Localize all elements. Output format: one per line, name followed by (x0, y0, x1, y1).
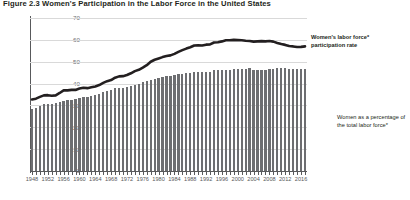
x-tick (68, 172, 69, 175)
x-tick (32, 172, 33, 175)
x-tick (301, 172, 302, 175)
x-tick-label: 1964 (89, 177, 101, 183)
x-tick (60, 172, 61, 175)
x-tick-label: 1972 (121, 177, 133, 183)
x-tick (103, 172, 104, 175)
x-tick (285, 172, 286, 175)
x-tick (64, 172, 65, 175)
x-tick (127, 172, 128, 175)
x-tick-label: 1948 (26, 177, 38, 183)
x-tick (151, 172, 152, 175)
x-tick (56, 172, 57, 175)
x-tick (48, 172, 49, 175)
x-tick (210, 172, 211, 175)
x-tick (258, 172, 259, 175)
x-tick (95, 172, 96, 175)
x-tick (91, 172, 92, 175)
x-tick (147, 172, 148, 175)
x-tick (226, 172, 227, 175)
x-tick (214, 172, 215, 175)
x-tick-label: 2004 (247, 177, 259, 183)
x-tick (174, 172, 175, 175)
x-tick (72, 172, 73, 175)
x-tick-label: 2000 (232, 177, 244, 183)
x-tick-label: 1968 (105, 177, 117, 183)
x-tick (198, 172, 199, 175)
x-tick (273, 172, 274, 175)
x-tick (277, 172, 278, 175)
x-tick (305, 172, 306, 175)
x-tick (265, 172, 266, 175)
x-tick (135, 172, 136, 175)
x-tick (143, 172, 144, 175)
x-tick (111, 172, 112, 175)
x-tick-label: 1956 (57, 177, 69, 183)
x-tick (230, 172, 231, 175)
x-tick-label: 2016 (295, 177, 307, 183)
annotation-line-series: Women's labor force* participation rate (311, 34, 387, 49)
x-tick (139, 172, 140, 175)
x-tick-label: 1996 (216, 177, 228, 183)
x-tick (269, 172, 270, 175)
x-tick-label: 1960 (73, 177, 85, 183)
annotation-bar-series: Women as a percentage of the total labor… (337, 114, 410, 129)
x-label-group: 1948195219561960196419681972197619801984… (0, 177, 389, 189)
x-tick (52, 172, 53, 175)
x-tick (242, 172, 243, 175)
x-tick (87, 172, 88, 175)
x-tick (167, 172, 168, 175)
x-tick (238, 172, 239, 175)
x-tick (40, 172, 41, 175)
x-tick (123, 172, 124, 175)
x-tick (83, 172, 84, 175)
x-tick-label: 1952 (42, 177, 54, 183)
x-tick (119, 172, 120, 175)
x-tick (246, 172, 247, 175)
x-tick-label: 2008 (263, 177, 275, 183)
x-tick (131, 172, 132, 175)
x-tick-label: 1988 (184, 177, 196, 183)
x-tick (186, 172, 187, 175)
line-series-svg (30, 0, 307, 171)
x-tick (44, 172, 45, 175)
x-tick (281, 172, 282, 175)
x-tick (293, 172, 294, 175)
x-tick (99, 172, 100, 175)
x-tick (261, 172, 262, 175)
x-tick (36, 172, 37, 175)
x-tick (79, 172, 80, 175)
x-tick (289, 172, 290, 175)
x-tick (115, 172, 116, 175)
x-tick (297, 172, 298, 175)
x-tick (170, 172, 171, 175)
x-tick-label: 2012 (279, 177, 291, 183)
x-tick-label: 1984 (168, 177, 180, 183)
x-tick-label: 1992 (200, 177, 212, 183)
x-tick (76, 172, 77, 175)
x-tick (222, 172, 223, 175)
x-tick-label: 1976 (137, 177, 149, 183)
plot-area (30, 18, 307, 171)
x-tick (194, 172, 195, 175)
x-tick (182, 172, 183, 175)
x-tick (218, 172, 219, 175)
x-tick (155, 172, 156, 175)
x-tick (234, 172, 235, 175)
x-tick (107, 172, 108, 175)
x-tick (178, 172, 179, 175)
x-tick (254, 172, 255, 175)
x-tick (163, 172, 164, 175)
x-tick (206, 172, 207, 175)
x-tick (159, 172, 160, 175)
x-tick-label: 1980 (152, 177, 164, 183)
x-tick (190, 172, 191, 175)
x-tick (202, 172, 203, 175)
x-tick (250, 172, 251, 175)
